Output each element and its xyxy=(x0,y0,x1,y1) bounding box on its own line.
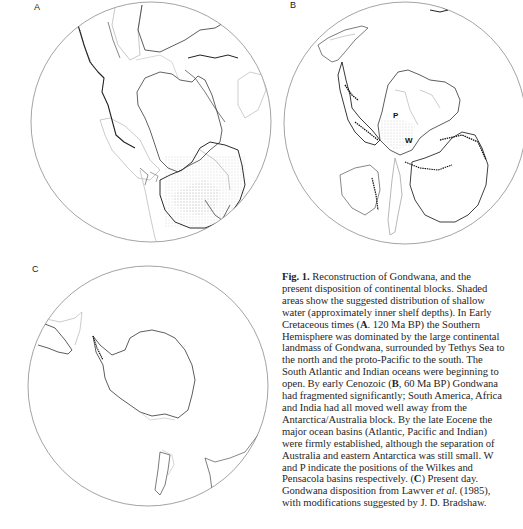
caption-line-12: and India had all moved well away from t… xyxy=(282,402,522,414)
caption-et-al: et al xyxy=(436,485,454,496)
caption-figure-number: Fig. 1. xyxy=(282,271,310,282)
coastline-australia-b xyxy=(410,132,488,222)
caption-text: Reconstruction of Gondwana, and the xyxy=(310,271,471,282)
caption-line-7: landmass of Gondwana, surrounded by Teth… xyxy=(282,342,522,354)
caption-line-20: with modifications suggested by J. D. Br… xyxy=(282,497,522,509)
caption-line-18: Pensacola basins respectively. (C) Prese… xyxy=(282,473,522,485)
globe-outline-c xyxy=(28,266,268,506)
caption-line-1: Fig. 1. Reconstruction of Gondwana, and … xyxy=(282,271,522,283)
caption-line-2: present disposition of continental block… xyxy=(282,283,522,295)
caption-text: Cretaceous times ( xyxy=(282,319,360,330)
caption-line-17: and P indicate the positions of the Wilk… xyxy=(282,462,522,474)
caption-line-14: major ocean basins (Atlantic, Pacific an… xyxy=(282,426,522,438)
caption-panel-ref-a: A xyxy=(360,319,368,330)
caption-line-6: Hemisphere was dominated by the large co… xyxy=(282,331,522,343)
figure-caption: Fig. 1. Reconstruction of Gondwana, and … xyxy=(282,271,522,509)
caption-line-16: Australia and eastern Antarctica was sti… xyxy=(282,450,522,462)
caption-line-10: open. By early Cenozoic (B, 60 Ma BP) Go… xyxy=(282,378,522,390)
caption-line-11: had fragmented significantly; South Amer… xyxy=(282,390,522,402)
caption-line-19: Gondwana disposition from Lawver et al. … xyxy=(282,485,522,497)
caption-line-13: Antarctica/Australia block. By the late … xyxy=(282,414,522,426)
caption-line-8: the north and the proto-Pacific to the s… xyxy=(282,354,522,366)
caption-line-9: South Atlantic and Indian oceans were be… xyxy=(282,366,522,378)
caption-line-15: were firmly established, although the se… xyxy=(282,438,522,450)
caption-text: Pensacola basins respectively. ( xyxy=(282,473,414,484)
coastline-antarctica-c xyxy=(93,330,195,418)
caption-line-4: water (approximately inner shelf depths)… xyxy=(282,307,522,319)
marker-pensacola: P xyxy=(393,111,399,120)
caption-panel-ref-b: B xyxy=(392,378,399,389)
caption-text: . 120 Ma BP) the Southern xyxy=(368,319,480,330)
caption-text: . (1985), xyxy=(455,485,491,496)
caption-line-3: areas show the suggested distribution of… xyxy=(282,295,522,307)
caption-text: , 60 Ma BP) Gondwana xyxy=(399,378,498,389)
marker-wilkes: W xyxy=(405,136,413,145)
caption-text: open. By early Cenozoic ( xyxy=(282,378,392,389)
coastline-africa-b xyxy=(340,165,380,215)
caption-text: ) Present day. xyxy=(421,473,478,484)
caption-line-5: Cretaceous times (A. 120 Ma BP) the Sout… xyxy=(282,319,522,331)
caption-text: Gondwana disposition from Lawver xyxy=(282,485,436,496)
